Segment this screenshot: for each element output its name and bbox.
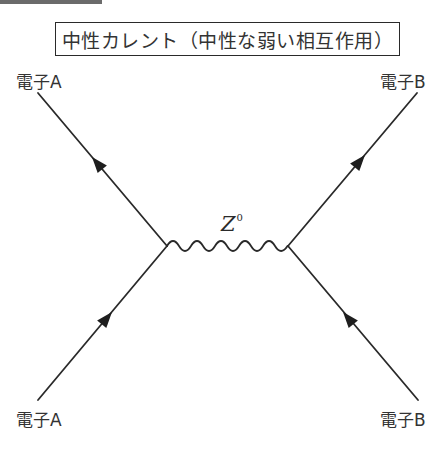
z-boson-wavy-line	[167, 241, 288, 251]
z-boson-label: Z0	[221, 212, 243, 236]
electron-b-outgoing-line	[288, 93, 417, 246]
z-boson-charge: 0	[237, 212, 243, 223]
electron-a-outgoing-line	[38, 93, 167, 246]
z-boson-symbol: Z	[221, 212, 236, 236]
